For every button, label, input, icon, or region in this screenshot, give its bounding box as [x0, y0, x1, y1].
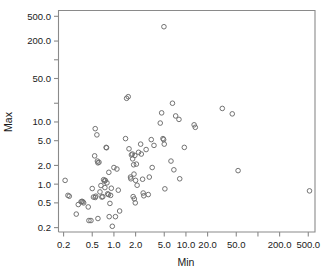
x-tick-label-0: 0.2 — [57, 239, 70, 250]
data-point-series — [63, 24, 312, 228]
data-point — [236, 168, 241, 173]
plot-canvas: 0.20.51.02.05.010.020.050.0200.0500.0 0.… — [0, 0, 324, 271]
x-axis-tick-labels: 0.20.51.02.05.010.020.050.0200.0500.0 — [57, 239, 320, 250]
x-tick-label-1: 0.5 — [86, 239, 99, 250]
data-point — [177, 176, 182, 181]
y-tick-label-3: 2.0 — [38, 160, 51, 171]
data-point — [67, 194, 72, 199]
data-point — [147, 175, 152, 180]
data-point — [150, 165, 155, 170]
data-point — [135, 183, 140, 188]
data-point — [98, 190, 103, 195]
y-tick-label-0: 0.2 — [38, 222, 51, 233]
y-tick-label-4: 5.0 — [38, 135, 51, 146]
data-point — [92, 154, 97, 159]
y-tick-label-10: 500.0 — [27, 11, 51, 22]
data-point — [110, 224, 115, 229]
data-point — [103, 185, 108, 190]
data-point — [123, 136, 128, 141]
data-point — [142, 193, 147, 198]
data-point — [117, 209, 122, 214]
data-point — [159, 111, 164, 116]
data-point — [86, 205, 91, 210]
x-tick-label-10: 500.0 — [296, 239, 320, 250]
x-tick-label-3: 2.0 — [129, 239, 142, 250]
x-tick-label-5: 10.0 — [177, 239, 196, 250]
data-point — [149, 137, 154, 142]
data-point — [133, 178, 138, 183]
data-point — [307, 189, 312, 194]
data-point — [230, 112, 235, 117]
data-point — [169, 159, 174, 164]
y-tick-label-7: 50.0 — [33, 73, 52, 84]
x-tick-label-4: 5.0 — [158, 239, 171, 250]
data-point — [109, 186, 114, 191]
data-point — [96, 216, 101, 221]
y-tick-label-2: 1.0 — [38, 179, 51, 190]
data-point — [170, 101, 175, 106]
data-point — [116, 188, 121, 193]
data-point — [93, 126, 98, 131]
x-tick-label-2: 1.0 — [107, 239, 120, 250]
data-point — [107, 170, 112, 175]
data-point — [146, 192, 151, 197]
y-axis-ticks — [54, 16, 59, 227]
y-axis-tick-labels: 0.20.51.02.05.010.050.0200.0500.0 — [27, 11, 51, 233]
y-axis-title: Max — [2, 111, 14, 132]
scatter-plot-figure: 0.20.51.02.05.010.020.050.0200.0500.0 0.… — [0, 0, 324, 271]
data-point — [162, 24, 167, 29]
data-point — [144, 147, 149, 152]
data-point — [140, 177, 145, 182]
data-point — [152, 143, 157, 148]
data-point — [134, 162, 139, 167]
data-point — [162, 142, 167, 147]
data-point — [163, 187, 168, 192]
y-tick-label-9: 200.0 — [27, 35, 51, 46]
data-point — [177, 117, 182, 122]
x-tick-label-7: 50.0 — [227, 239, 246, 250]
data-point — [182, 145, 187, 150]
x-axis-ticks — [64, 232, 309, 237]
data-point — [90, 186, 95, 191]
data-point — [132, 172, 137, 177]
x-axis-title: Min — [178, 256, 195, 268]
y-tick-label-1: 0.5 — [38, 197, 51, 208]
data-point — [138, 142, 143, 147]
x-tick-label-6: 20.0 — [198, 239, 217, 250]
data-point — [95, 133, 100, 138]
data-point — [74, 212, 79, 217]
data-point — [172, 168, 177, 173]
x-tick-label-9: 200.0 — [268, 239, 292, 250]
y-tick-label-5: 10.0 — [33, 116, 52, 127]
data-point — [158, 121, 163, 126]
data-point — [108, 201, 113, 206]
data-point — [107, 214, 112, 219]
data-point — [220, 106, 225, 111]
data-point — [127, 147, 132, 152]
data-point — [113, 214, 118, 219]
data-point — [63, 178, 68, 183]
